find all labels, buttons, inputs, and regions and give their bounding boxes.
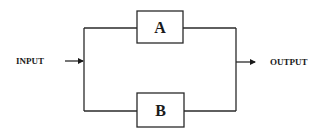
input-label: INPUT [16, 56, 44, 66]
parallel-block-diagram: INPUT A B OUTPUT [0, 0, 324, 136]
block-a: A [137, 11, 183, 43]
block-b-label: B [155, 102, 166, 119]
output-label: OUTPUT [270, 57, 308, 67]
block-a-label: A [154, 19, 166, 36]
block-b: B [137, 93, 184, 127]
